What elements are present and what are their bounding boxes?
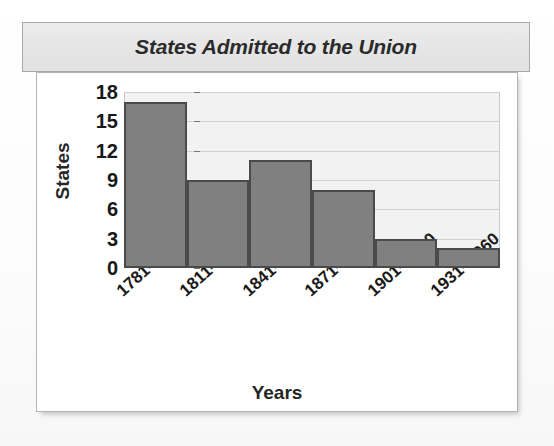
- x-axis-ticks: 1781–18101811–18401841–18701871–19001901…: [124, 268, 500, 378]
- y-tick-label: 9: [76, 170, 118, 190]
- y-tick-mark: [194, 151, 200, 152]
- bar: [375, 239, 438, 268]
- y-tick-label: 18: [76, 82, 118, 102]
- y-tick-label: 6: [76, 199, 118, 219]
- bar-series: [124, 92, 500, 268]
- bar: [437, 248, 500, 268]
- bar: [312, 190, 375, 268]
- y-tick-label: 12: [76, 141, 118, 161]
- y-tick-label: 15: [76, 111, 118, 131]
- bar: [124, 102, 187, 268]
- y-axis-title: States: [52, 136, 74, 206]
- y-tick-mark: [194, 92, 200, 93]
- y-axis-ticks: 0369121518: [76, 82, 118, 278]
- chart-title-banner: States Admitted to the Union: [22, 22, 530, 72]
- bar: [187, 180, 250, 268]
- page-title: States Admitted to the Union: [135, 35, 417, 59]
- x-axis-title: Years: [36, 382, 518, 404]
- bar: [249, 160, 312, 268]
- y-tick-label: 3: [76, 229, 118, 249]
- y-tick-mark: [194, 121, 200, 122]
- y-tick-label: 0: [76, 258, 118, 278]
